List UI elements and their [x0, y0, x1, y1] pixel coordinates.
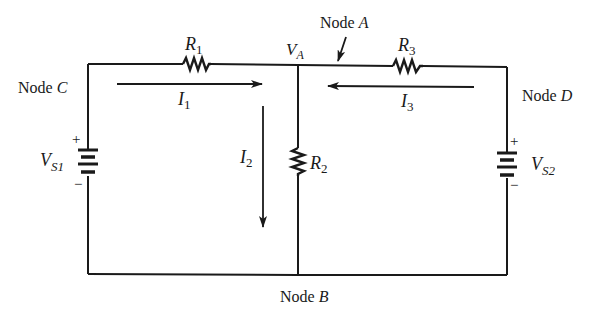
i3-label: I3: [400, 91, 414, 114]
vs2-label: VS2: [531, 154, 556, 178]
node-d-label: Node D: [522, 87, 573, 104]
vs1-minus-sign: −: [74, 176, 82, 192]
voltage-source-vs1: [78, 150, 98, 172]
resistor-r2: [292, 148, 304, 176]
va-label: VA: [286, 40, 304, 62]
r3-label: R3: [397, 35, 416, 58]
wire-top-right: [423, 66, 507, 67]
resistor-r3: [393, 60, 423, 72]
i1-label: I1: [177, 89, 191, 112]
vs1-plus-sign: +: [72, 131, 80, 147]
node-b-label: Node B: [280, 288, 329, 305]
wire-bottom: [88, 274, 507, 275]
voltage-source-vs2: [497, 153, 517, 175]
vs1-label: VS1: [40, 150, 64, 174]
node-a-pointer-arrow: [338, 37, 346, 61]
wire-top-middle: [211, 64, 393, 66]
r2-label: R2: [309, 153, 328, 176]
r1-label: R1: [184, 34, 203, 57]
i2-label: I2: [239, 147, 253, 170]
resistor-r1: [183, 58, 211, 70]
circuit-diagram: + − VS1 + − VS2 R1 R2 R3 VA I1 I2 I3: [0, 0, 601, 324]
node-c-label: Node C: [18, 79, 68, 96]
vs2-plus-sign: +: [510, 133, 518, 149]
node-a-label: Node A: [320, 14, 369, 31]
current-arrow-i3: [328, 86, 474, 87]
vs2-minus-sign: −: [510, 177, 518, 193]
